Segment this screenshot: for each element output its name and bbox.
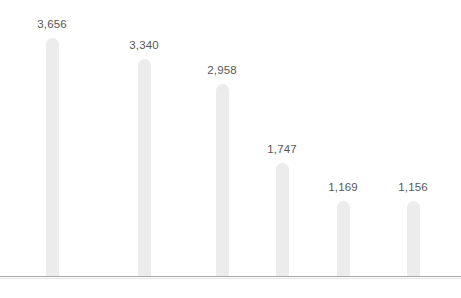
bar[interactable] (407, 201, 420, 277)
plot-area: 3,6563,3402,9581,7471,1691,156 (0, 0, 461, 277)
bar-group[interactable]: 1,169 (337, 201, 350, 277)
bar-group[interactable]: 1,156 (407, 201, 420, 277)
bar-group[interactable]: 3,340 (138, 59, 151, 277)
x-axis-baseline (0, 276, 461, 277)
bar-value-label: 1,156 (398, 181, 427, 194)
bar-group[interactable]: 2,958 (216, 84, 229, 277)
bar[interactable] (337, 201, 350, 277)
bar-value-label: 2,958 (207, 64, 236, 77)
bar-value-label: 3,340 (129, 39, 158, 52)
bar-value-label: 1,747 (267, 143, 296, 156)
bar-chart: 3,6563,3402,9581,7471,1691,156 (0, 0, 461, 298)
bar-group[interactable]: 1,747 (276, 163, 289, 277)
bar-value-label: 1,169 (328, 181, 357, 194)
bar[interactable] (276, 163, 289, 277)
category-axis (0, 291, 461, 298)
x-axis-baseline-shadow (0, 278, 461, 279)
bar-group[interactable]: 3,656 (46, 38, 59, 277)
bar[interactable] (138, 59, 151, 277)
bar[interactable] (46, 38, 59, 277)
bar[interactable] (216, 84, 229, 277)
bar-value-label: 3,656 (37, 18, 66, 31)
